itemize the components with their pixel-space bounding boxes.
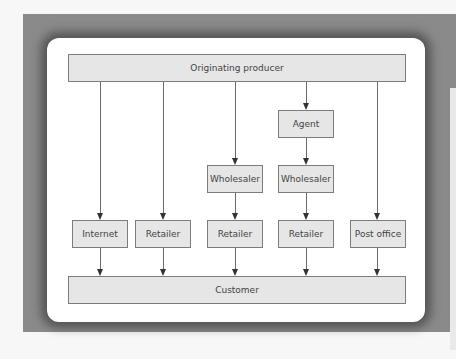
internet-label: Internet <box>82 229 118 239</box>
connector-line <box>377 248 378 269</box>
customer-label: Customer <box>215 285 259 295</box>
post-office-label: Post office <box>355 229 401 239</box>
agent-box: Agent <box>278 110 334 138</box>
arrow-down-icon <box>303 269 309 276</box>
originating-producer-label: Originating producer <box>190 63 283 73</box>
wholesaler-box: Wholesaler <box>278 165 334 193</box>
arrow-down-icon <box>232 269 238 276</box>
retailer-box: Retailer <box>135 220 191 248</box>
agent-label: Agent <box>293 119 320 129</box>
retailer-label: Retailer <box>289 229 324 239</box>
arrow-down-icon <box>303 213 309 220</box>
connector-line <box>306 82 307 103</box>
connector-line <box>306 138 307 158</box>
internet-box: Internet <box>72 220 128 248</box>
connector-line <box>377 82 378 213</box>
wholesaler-label: Wholesaler <box>210 174 260 184</box>
arrow-down-icon <box>97 213 103 220</box>
connector-line <box>163 248 164 269</box>
connector-line <box>235 248 236 269</box>
arrow-down-icon <box>97 269 103 276</box>
retailer-label: Retailer <box>146 229 181 239</box>
connector-line <box>306 193 307 213</box>
side-panel <box>450 88 456 350</box>
arrow-down-icon <box>374 269 380 276</box>
connector-line <box>235 193 236 213</box>
arrow-down-icon <box>232 158 238 165</box>
customer-box: Customer <box>68 276 406 304</box>
connector-line <box>163 82 164 213</box>
connector-line <box>100 82 101 213</box>
retailer-label: Retailer <box>218 229 253 239</box>
connector-line <box>235 82 236 158</box>
arrow-down-icon <box>232 213 238 220</box>
arrow-down-icon <box>374 213 380 220</box>
connector-line <box>306 248 307 269</box>
post-office-box: Post office <box>350 220 406 248</box>
arrow-down-icon <box>160 269 166 276</box>
arrow-down-icon <box>160 213 166 220</box>
originating-producer-box: Originating producer <box>68 54 406 82</box>
wholesaler-box: Wholesaler <box>207 165 263 193</box>
arrow-down-icon <box>303 158 309 165</box>
wholesaler-label: Wholesaler <box>281 174 331 184</box>
retailer-box: Retailer <box>278 220 334 248</box>
retailer-box: Retailer <box>207 220 263 248</box>
connector-line <box>100 248 101 269</box>
arrow-down-icon <box>303 103 309 110</box>
